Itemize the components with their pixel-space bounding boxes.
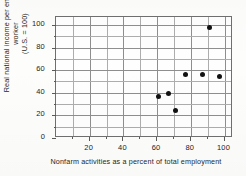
gridline-vertical [140,17,141,136]
x-axis-tick [207,137,208,139]
gridline-horizontal [56,36,231,37]
x-axis-tick [190,137,191,141]
data-point [156,94,161,99]
gridline-horizontal [56,104,231,105]
x-axis-tick [89,137,90,141]
gridline-vertical [157,17,158,136]
gridline-vertical [90,17,91,136]
y-axis-tick [54,59,56,60]
data-point [173,108,178,113]
gridline-horizontal [56,48,231,49]
x-axis-ticks [55,137,232,143]
data-point [183,72,188,77]
x-axis-tick [173,137,174,139]
gridline-vertical [208,17,209,136]
y-axis-tick [52,48,56,49]
x-axis-tick [156,137,157,141]
data-point [166,91,171,96]
gridline-vertical [123,17,124,136]
y-axis-tick-label: 20 [36,110,45,118]
gridline-vertical [107,17,108,136]
scatter-chart: Real national income per employed worker… [0,0,246,176]
gridline-horizontal [56,59,231,60]
x-axis-tick [224,137,225,141]
gridline-vertical [174,17,175,136]
data-point [217,74,222,79]
x-axis-title: Nonfarm activities as a percent of total… [36,157,236,166]
y-axis-tick-label: 80 [36,43,45,51]
x-axis-tick [106,137,107,139]
gridline-vertical [225,17,226,136]
y-axis-tick-labels: 020406080100 [0,16,51,137]
x-axis-tick-label: 40 [118,144,127,152]
gridline-horizontal [56,127,231,128]
data-point [207,25,212,30]
x-axis-tick [139,137,140,139]
y-axis-tick [52,70,56,71]
y-axis-tick [52,115,56,116]
gridline-horizontal [56,81,231,82]
y-axis-tick [54,81,56,82]
data-point [200,72,205,77]
gridline-horizontal [56,115,231,116]
plot-area [55,16,232,137]
gridline-horizontal [56,93,231,94]
y-axis-tick-label: 40 [36,88,45,96]
gridline-vertical [191,17,192,136]
x-axis-tick-label: 80 [185,144,194,152]
y-axis-tick [54,36,56,37]
gridline-horizontal [56,25,231,26]
y-axis-tick [54,127,56,128]
y-axis-tick-label: 100 [32,20,45,28]
x-axis-tick-labels: 20406080100 [55,144,232,154]
y-axis-tick-label: 0 [41,133,45,141]
x-axis-tick-label: 20 [84,144,93,152]
x-axis-tick-label: 100 [217,144,230,152]
gridline-horizontal [56,70,231,71]
y-axis-tick [52,93,56,94]
y-axis-tick [54,104,56,105]
gridline-vertical [73,17,74,136]
y-axis-tick-label: 60 [36,65,45,73]
x-axis-tick [122,137,123,141]
x-axis-tick-label: 60 [152,144,161,152]
y-axis-tick [52,25,56,26]
x-axis-tick [72,137,73,139]
